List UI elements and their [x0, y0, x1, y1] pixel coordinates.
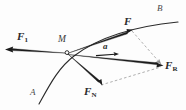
- dashed-line-f-to-fr: [132, 31, 161, 64]
- label-force-f1-symbol: F: [17, 30, 24, 42]
- dashed-line-fn-to-fr: [101, 67, 161, 85]
- label-force-fn: FN: [84, 86, 96, 97]
- label-curve-start-a: A: [30, 88, 36, 97]
- label-acceleration-a-symbol: a: [103, 41, 108, 51]
- label-curve-end-b: B: [157, 4, 163, 13]
- label-force-f-symbol: F: [124, 15, 131, 27]
- label-curve-start-a-symbol: A: [30, 87, 36, 97]
- normal-force-vector-fn-shaft: [67, 54, 100, 83]
- label-force-fn-subscript: N: [92, 91, 97, 99]
- label-acceleration-a: a: [103, 42, 108, 51]
- label-force-fr-subscript: R: [173, 65, 178, 73]
- label-force-fr-symbol: F: [165, 59, 172, 71]
- resultant-force-vector-fr-shaft: [67, 54, 158, 64]
- vertex-point-m: [65, 51, 69, 55]
- force-decomposition-diagram: F1 F FR FN a M A B: [0, 0, 186, 110]
- label-vertex-m-symbol: M: [58, 34, 66, 44]
- label-force-f1: F1: [17, 31, 28, 42]
- label-force-fn-symbol: F: [84, 85, 91, 97]
- label-curve-end-b-symbol: B: [157, 3, 163, 13]
- label-vertex-m: M: [58, 35, 66, 45]
- force-vector-f1-shaft: [12, 49, 68, 54]
- acceleration-vector-a-shaft: [96, 54, 115, 55]
- label-force-f1-subscript: 1: [25, 36, 29, 44]
- force-vector-f1-head: [5, 47, 13, 53]
- normal-force-vector-fn-head: [96, 79, 102, 85]
- label-force-f: F: [124, 16, 131, 27]
- label-force-fr: FR: [165, 60, 177, 71]
- force-vector-f-shaft: [67, 32, 128, 54]
